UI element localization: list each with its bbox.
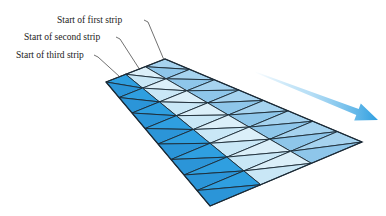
triangle-strip-diagram: Start of first stripStart of second stri… [0,0,386,216]
label-strip-2: Start of second strip [24,32,101,42]
leader-line [116,37,140,70]
leader-line [94,55,120,77]
triangle-mesh [106,59,362,206]
label-strip-3: Start of third strip [16,50,84,60]
label-strip-1: Start of first strip [57,15,122,25]
leader-line [144,20,164,60]
